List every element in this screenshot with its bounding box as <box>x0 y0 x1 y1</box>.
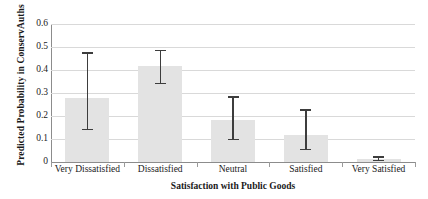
error-bar-cap-bottom <box>155 83 166 84</box>
gridline <box>51 24 415 25</box>
error-bar <box>154 50 166 85</box>
gridline <box>51 47 415 48</box>
x-category-label: Very Dissatisfied <box>51 164 124 174</box>
x-category-label: Very Satisfied <box>342 164 415 174</box>
error-bar-stem <box>160 50 161 85</box>
y-tick-label: 0.6 <box>36 19 48 29</box>
error-bar-stem <box>232 96 233 140</box>
error-bar <box>300 109 312 150</box>
gridline <box>51 93 415 94</box>
y-tick-label: 0.2 <box>36 111 48 121</box>
bar-chart: Predicted Probability in ConservAuths 00… <box>0 0 428 199</box>
error-bar-stem <box>87 52 88 130</box>
x-category-label: Dissatisfied <box>124 164 197 174</box>
error-bar-cap-bottom <box>300 149 311 150</box>
error-bar <box>373 156 385 161</box>
plot-area <box>51 24 415 162</box>
error-bar-cap-bottom <box>228 139 239 140</box>
x-axis-tick <box>415 162 416 167</box>
y-axis-tick-labels: 00.10.20.30.40.50.6 <box>24 0 48 199</box>
gridline <box>51 162 415 163</box>
y-tick-label: 0.5 <box>36 42 48 52</box>
x-category-label: Neutral <box>197 164 270 174</box>
y-tick-label: 0 <box>43 157 48 167</box>
error-bar <box>227 96 239 140</box>
error-bar-stem <box>305 109 306 150</box>
x-axis-title: Satisfaction with Public Goods <box>51 181 415 191</box>
y-tick-label: 0.3 <box>36 88 48 98</box>
y-tick-label: 0.1 <box>36 134 48 144</box>
error-bar <box>81 52 93 130</box>
x-axis-category-labels: Very DissatisfiedDissatisfiedNeutralSati… <box>51 164 415 180</box>
y-tick-label: 0.4 <box>36 65 48 75</box>
gridline <box>51 70 415 71</box>
x-category-label: Satisfied <box>269 164 342 174</box>
error-bar-cap-bottom <box>373 160 384 161</box>
error-bar-cap-bottom <box>82 129 93 130</box>
